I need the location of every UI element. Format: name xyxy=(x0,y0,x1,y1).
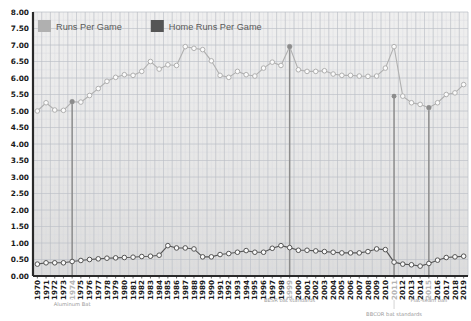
data-point-runs-1989 xyxy=(200,47,205,52)
data-point-runs-2011 xyxy=(392,44,397,49)
data-point-home-runs-2015 xyxy=(427,261,432,266)
annotation-label-2015: Flat-seam ball xyxy=(411,297,448,303)
data-point-home-runs-2005 xyxy=(340,251,345,256)
data-point-home-runs-1976 xyxy=(87,257,92,262)
data-point-home-runs-2001 xyxy=(305,248,310,253)
runs-per-game-line-chart: 0.000.501.001.502.002.503.003.504.004.50… xyxy=(0,0,471,321)
data-point-runs-2006 xyxy=(348,73,353,78)
x-tick-label-1976: 1976 xyxy=(85,280,94,300)
data-point-home-runs-2006 xyxy=(348,251,353,256)
data-point-runs-1990 xyxy=(209,59,214,64)
y-tick-label: 1.50 xyxy=(11,222,29,231)
data-point-runs-2003 xyxy=(322,68,327,73)
data-point-runs-1976 xyxy=(87,93,92,98)
data-point-runs-1979 xyxy=(113,75,118,80)
y-tick-label: 3.50 xyxy=(11,156,29,165)
y-tick-label: 5.50 xyxy=(11,90,29,99)
data-point-runs-2005 xyxy=(340,73,345,78)
data-point-home-runs-2014 xyxy=(418,264,423,269)
x-tick-label-1988: 1988 xyxy=(190,280,199,300)
x-tick-label-1989: 1989 xyxy=(198,280,207,300)
data-point-runs-2002 xyxy=(313,69,318,74)
data-point-runs-2010 xyxy=(383,66,388,71)
x-tick-label-1972: 1972 xyxy=(50,280,59,300)
x-tick-label-1992: 1992 xyxy=(224,280,233,300)
data-point-runs-1984 xyxy=(157,67,162,72)
x-tick-label-2007: 2007 xyxy=(355,280,364,300)
data-point-home-runs-1991 xyxy=(218,252,223,257)
data-point-home-runs-1986 xyxy=(174,246,179,251)
y-tick-label: 0.00 xyxy=(11,272,29,281)
data-point-runs-1994 xyxy=(244,72,249,77)
legend-swatch-0 xyxy=(38,20,51,32)
data-point-home-runs-1984 xyxy=(157,253,162,258)
y-tick-label: 1.00 xyxy=(11,239,29,248)
x-tick-label-2011: 2011 xyxy=(390,280,399,300)
data-point-runs-1971 xyxy=(44,100,49,105)
data-point-runs-1980 xyxy=(122,72,127,77)
data-point-home-runs-1982 xyxy=(139,254,144,259)
data-point-runs-1987 xyxy=(183,44,188,49)
x-tick-label-1986: 1986 xyxy=(172,280,181,300)
data-point-home-runs-1994 xyxy=(244,248,249,253)
data-point-home-runs-2008 xyxy=(366,249,371,254)
data-point-runs-1993 xyxy=(235,69,240,74)
x-tick-label-2010: 2010 xyxy=(381,280,390,300)
data-point-home-runs-1973 xyxy=(61,261,66,266)
legend-label-0: Runs Per Game xyxy=(56,22,122,32)
data-point-runs-2019 xyxy=(461,82,466,87)
x-tick-label-1982: 1982 xyxy=(137,280,146,300)
annotation-label-2011: BBCOR bat standards xyxy=(366,311,422,317)
data-point-runs-1992 xyxy=(226,75,231,80)
data-point-home-runs-2017 xyxy=(444,255,449,260)
data-point-runs-2000 xyxy=(296,67,301,72)
data-point-home-runs-2000 xyxy=(296,248,301,253)
y-tick-label: 6.00 xyxy=(11,74,29,83)
x-tick-label-1970: 1970 xyxy=(33,280,42,300)
data-point-home-runs-1989 xyxy=(200,255,205,260)
data-point-home-runs-1975 xyxy=(79,258,84,263)
marker-dot-runs-2011 xyxy=(392,94,397,99)
x-tick-label-1994: 1994 xyxy=(242,280,251,300)
annotation-label-1974: Aluminum Bat xyxy=(54,301,91,307)
y-tick-label: 2.00 xyxy=(11,206,29,215)
data-point-runs-2016 xyxy=(435,100,440,105)
y-tick-label: 0.50 xyxy=(11,255,29,264)
data-point-runs-2001 xyxy=(305,69,310,74)
x-tick-label-1985: 1985 xyxy=(163,280,172,300)
data-point-runs-2009 xyxy=(374,74,379,79)
data-point-home-runs-1985 xyxy=(166,243,171,248)
data-point-home-runs-1983 xyxy=(148,254,153,259)
data-point-runs-1985 xyxy=(166,63,171,68)
x-tick-label-1987: 1987 xyxy=(181,280,190,300)
x-tick-label-2005: 2005 xyxy=(337,280,346,300)
x-tick-label-1991: 1991 xyxy=(216,280,225,300)
data-point-home-runs-2010 xyxy=(383,247,388,252)
data-point-runs-1975 xyxy=(79,100,84,105)
data-point-home-runs-2018 xyxy=(453,255,458,260)
data-point-home-runs-2007 xyxy=(357,251,362,256)
data-point-runs-1986 xyxy=(174,63,179,68)
data-point-runs-2018 xyxy=(453,91,458,96)
data-point-home-runs-1997 xyxy=(270,246,275,251)
marker-dot-runs-2015 xyxy=(426,105,431,110)
data-point-home-runs-1972 xyxy=(52,261,57,266)
data-point-home-runs-1974 xyxy=(70,259,75,264)
x-tick-label-1973: 1973 xyxy=(59,280,68,300)
data-point-home-runs-2002 xyxy=(313,249,318,254)
data-point-runs-1977 xyxy=(96,86,101,91)
data-point-home-runs-1980 xyxy=(122,255,127,260)
chart-container: 0.000.501.001.502.002.503.003.504.004.50… xyxy=(0,0,471,321)
data-point-home-runs-1999 xyxy=(287,245,292,250)
data-point-home-runs-2016 xyxy=(435,258,440,263)
data-point-home-runs-1990 xyxy=(209,255,214,260)
data-point-home-runs-2019 xyxy=(461,254,466,259)
y-axis-tick-labels: 0.000.501.001.502.002.503.003.504.004.50… xyxy=(11,8,29,281)
data-point-runs-1988 xyxy=(192,46,197,51)
data-point-home-runs-2009 xyxy=(374,247,379,252)
data-point-runs-1998 xyxy=(279,63,284,68)
y-tick-label: 3.00 xyxy=(11,173,29,182)
y-tick-label: 4.50 xyxy=(11,123,29,132)
x-tick-label-1980: 1980 xyxy=(120,280,129,300)
x-tick-label-1983: 1983 xyxy=(146,280,155,300)
